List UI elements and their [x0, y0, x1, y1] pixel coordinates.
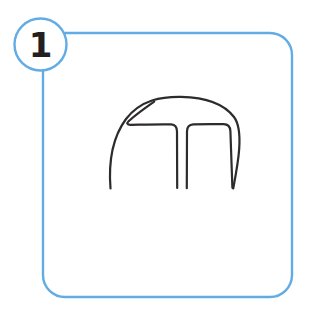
step-number-badge: 1 — [0, 0, 313, 321]
screenshot-root: 1 — [0, 0, 313, 321]
step-number-label: 1 — [29, 25, 53, 65]
tutorial-step-card: 1 — [0, 0, 313, 321]
